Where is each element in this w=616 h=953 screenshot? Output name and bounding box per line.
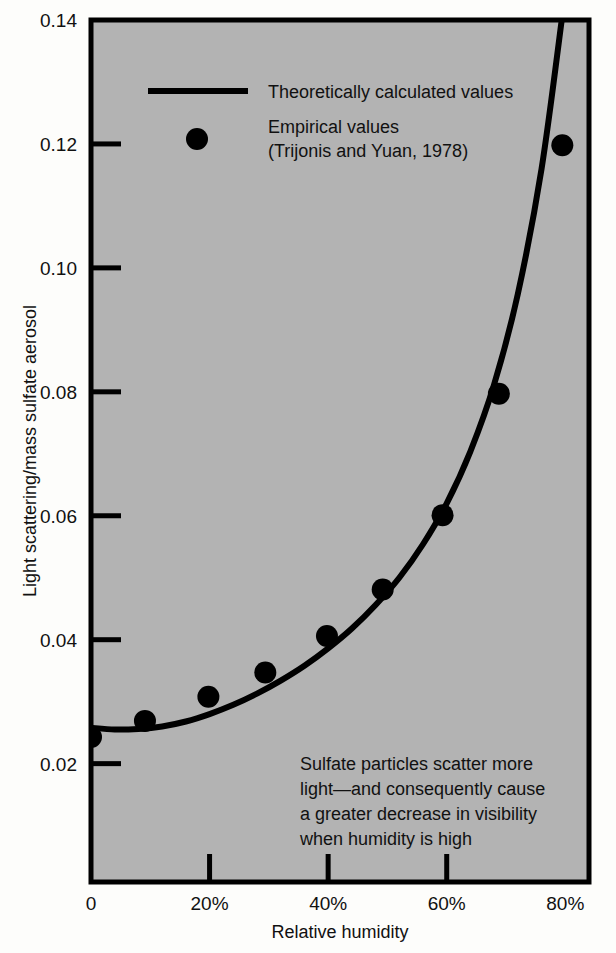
y-tick-label-1: 0.04 [40, 630, 77, 651]
legend-label-empirical-line1: Empirical values [268, 117, 399, 137]
y-tick-label-6: 0.14 [40, 10, 77, 31]
y-tick-label-2: 0.06 [40, 506, 77, 527]
data-point-2 [197, 686, 219, 708]
x-axis-title: Relative humidity [271, 922, 408, 942]
data-point-7 [488, 383, 510, 405]
y-tick-label-3: 0.08 [40, 382, 77, 403]
x-tick-label-4: 80% [546, 893, 584, 914]
y-tick-label-5: 0.12 [40, 134, 77, 155]
legend-label-empirical-line2: (Trijonis and Yuan, 1978) [268, 141, 468, 161]
data-point-4 [316, 625, 338, 647]
y-axis-title: Light scattering/mass sulfate aerosol [20, 305, 40, 597]
chart-figure: 0.020.040.060.080.100.120.14 020%40%60%8… [0, 0, 616, 953]
data-point-5 [372, 579, 394, 601]
y-tick-label-4: 0.10 [40, 258, 77, 279]
x-tick-label-1: 20% [191, 893, 229, 914]
data-point-3 [254, 662, 276, 684]
annotation-line-2: light—and consequently cause [300, 779, 545, 799]
x-tick-label-3: 60% [428, 893, 466, 914]
legend-dot-swatch [186, 128, 208, 150]
annotation-line-3: a greater decrease in visibility [300, 804, 537, 824]
legend-label-theoretical: Theoretically calculated values [268, 82, 513, 102]
data-point-8 [551, 134, 573, 156]
x-tick-label-2: 40% [309, 893, 347, 914]
x-tick-label-0: 0 [86, 893, 97, 914]
data-point-6 [432, 504, 454, 526]
chart-svg: 0.020.040.060.080.100.120.14 020%40%60%8… [0, 0, 616, 953]
annotation-line-4: when humidity is high [299, 829, 472, 849]
y-tick-label-0: 0.02 [40, 754, 77, 775]
annotation-line-1: Sulfate particles scatter more [300, 754, 533, 774]
data-point-1 [134, 710, 156, 732]
